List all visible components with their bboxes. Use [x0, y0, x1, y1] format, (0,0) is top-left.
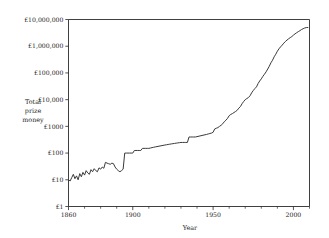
y-axis-tick-label: £100: [48, 149, 64, 156]
y-axis-title-line: money: [22, 116, 44, 124]
y-axis-tick-label: £1000: [44, 123, 64, 130]
x-axis-tick-label: 1860: [61, 211, 77, 218]
y-axis-tick-label: £100,000: [34, 69, 64, 76]
y-axis-title-line: Total: [25, 98, 41, 106]
prize-money-chart: £1£10£100£1000£10,000£100,000£1,000,000£…: [0, 0, 329, 238]
y-axis-title-line: prize: [25, 107, 42, 115]
chart-background: [0, 0, 329, 238]
x-axis-tick-label: 1950: [205, 211, 221, 218]
y-axis-tick-label: £1,000,000: [28, 42, 63, 49]
x-axis-tick-label: 2000: [286, 211, 302, 218]
y-axis-tick-label: £1: [56, 203, 64, 210]
chart-canvas: £1£10£100£1000£10,000£100,000£1,000,000£…: [0, 0, 329, 238]
x-axis-tick-label: 1900: [125, 211, 141, 218]
y-axis-tick-label: £10,000: [38, 96, 64, 103]
y-axis-tick-label: £10: [52, 176, 64, 183]
x-axis-title: Year: [182, 224, 198, 232]
y-axis-title: Totalprizemoney: [22, 98, 44, 123]
y-axis-tick-label: £10,000,000: [24, 16, 63, 23]
